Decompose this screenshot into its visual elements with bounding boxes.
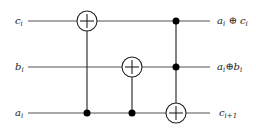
cnot-gate-2 — [122, 57, 142, 117]
cnot-gate-1 — [77, 11, 97, 117]
input-label-b: bi — [15, 61, 24, 74]
control-dot — [173, 64, 180, 71]
output-label-a: ci+1 — [219, 107, 237, 120]
input-label-c: ci — [15, 15, 23, 28]
control-dot — [173, 18, 180, 25]
output-label-b: ai⊕bi — [217, 61, 242, 74]
control-dot — [129, 110, 136, 117]
circuit-diagram: ci bi ai ai ⊕ ci ai⊕bi ci+1 — [0, 0, 256, 132]
toffoli-gate — [166, 18, 186, 124]
input-label-a: ai — [15, 107, 23, 120]
output-label-c: ai ⊕ ci — [217, 15, 248, 28]
control-dot — [84, 110, 91, 117]
